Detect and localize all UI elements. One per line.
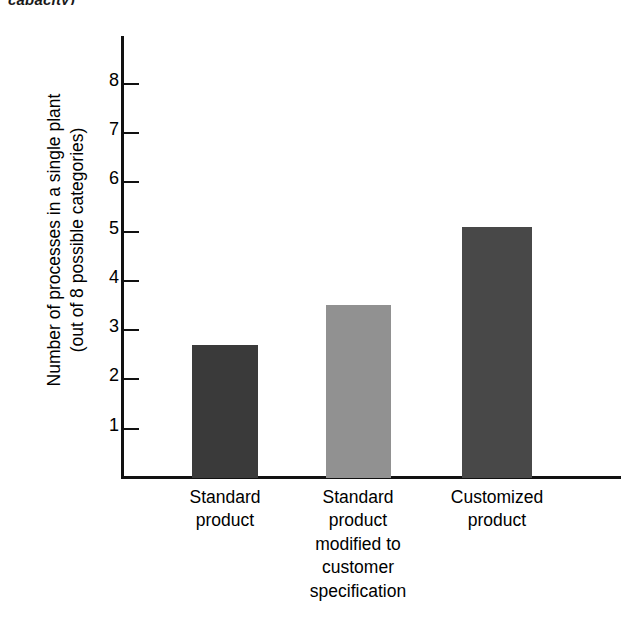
y-tick-label: 7: [109, 120, 119, 138]
bar-3: [462, 227, 532, 478]
y-tick-label: 8: [109, 71, 119, 89]
bar-1: [192, 345, 258, 478]
bar-2: [326, 305, 391, 478]
y-tick-mark: [122, 428, 139, 430]
y-tick-mark: [122, 231, 139, 233]
y-tick-mark: [122, 280, 139, 282]
bar-chart-figure: capacity) Number of processes in a singl…: [0, 0, 630, 627]
x-axis-label-line: Customized: [412, 486, 582, 509]
y-tick-mark: [122, 329, 139, 331]
y-tick-mark: [122, 378, 139, 380]
y-tick-mark: [122, 132, 139, 134]
x-axis-label-3: Customizedproduct: [412, 486, 582, 533]
y-axis-line: [121, 36, 124, 479]
y-tick-label: 1: [109, 416, 119, 434]
y-axis-title: Number of processes in a single plant (o…: [28, 10, 104, 470]
y-tick-label: 2: [109, 366, 119, 384]
y-tick-mark: [122, 83, 139, 85]
x-axis-label-line: customer: [274, 556, 442, 579]
x-axis-label-line: modified to: [274, 533, 442, 556]
y-tick-mark: [122, 181, 139, 183]
x-axis-label-line: product: [412, 509, 582, 532]
caption-fragment-text: capacity): [8, 0, 75, 5]
y-tick-label: 4: [109, 268, 119, 286]
y-tick-label: 5: [109, 219, 119, 237]
y-tick-label: 6: [109, 169, 119, 187]
y-tick-label: 3: [109, 317, 119, 335]
x-axis-label-line: specification: [274, 580, 442, 603]
y-axis-title-line-2: (out of 8 possible categories): [66, 128, 89, 353]
y-axis-title-line-1: Number of processes in a single plant: [43, 94, 66, 387]
